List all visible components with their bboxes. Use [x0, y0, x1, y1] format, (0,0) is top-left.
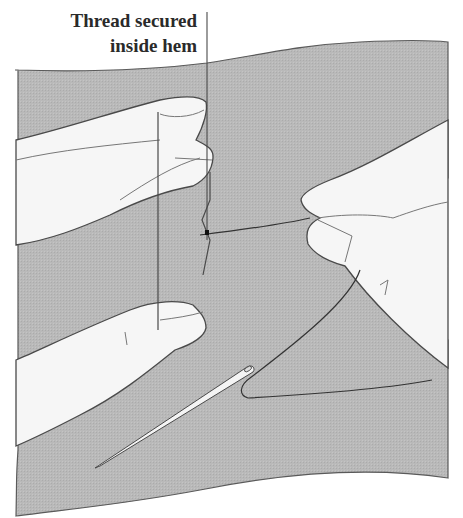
callout-line-2: inside hem	[71, 33, 198, 58]
thread-knot	[205, 230, 209, 235]
callout-label: Thread secured inside hem	[71, 8, 198, 58]
sewing-illustration	[0, 0, 463, 518]
callout-line-1: Thread secured	[71, 8, 198, 33]
